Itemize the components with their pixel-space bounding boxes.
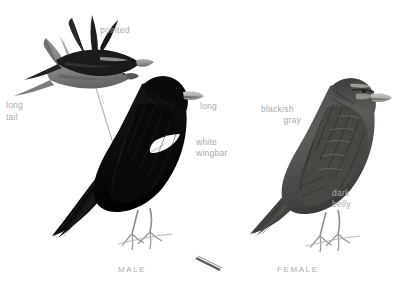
annotation-white-wingbar-line2: wingbar: [196, 148, 228, 159]
flight-pair-figure: [14, 15, 154, 96]
caption-female: FEMALE: [277, 265, 319, 274]
annotation-long: long: [200, 101, 217, 112]
bird-illustration-plate: pointed long tail long white wingbar bla…: [0, 0, 415, 295]
annotation-dark-belly-line2: belly: [332, 199, 351, 210]
annotation-dark-belly-line1: dark: [332, 188, 350, 199]
annotation-long-tail-line2: tail: [6, 112, 18, 123]
annotation-long-tail-line1: long: [6, 100, 23, 111]
caption-male: MALE: [118, 265, 146, 274]
perch-twig-detail: [196, 256, 222, 270]
annotation-blackish-gray-line2: gray: [261, 115, 301, 126]
flight-male-bird: [24, 15, 154, 80]
annotation-pointed: pointed: [100, 25, 130, 36]
annotation-blackish-gray-line1: blackish: [261, 104, 294, 115]
annotation-white-wingbar-line1: white: [196, 137, 217, 148]
perched-male-figure: [52, 76, 204, 250]
